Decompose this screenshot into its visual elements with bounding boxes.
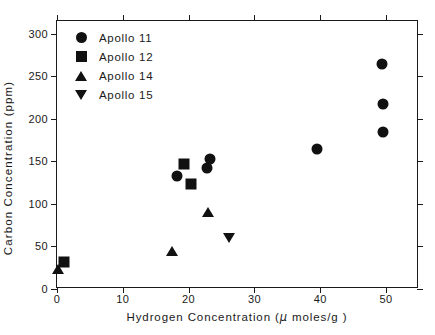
data-point-apollo-11 xyxy=(378,98,389,109)
y-axis-tick xyxy=(51,161,57,162)
triangle-down-marker-icon xyxy=(71,90,91,100)
y-axis-tick xyxy=(51,76,57,77)
y-axis-tick xyxy=(417,289,423,290)
x-axis-tick xyxy=(57,15,58,21)
data-point-apollo-11 xyxy=(204,153,215,164)
legend-label: Apollo 14 xyxy=(99,70,153,82)
legend-item-apollo-15[interactable]: Apollo 15 xyxy=(71,86,153,103)
plot-area: 05010015020025030001020304050 Apollo 11A… xyxy=(56,20,418,288)
legend-label: Apollo 11 xyxy=(99,32,152,44)
y-axis-tick xyxy=(417,119,423,120)
y-axis-title: Carbon Concentration (ppm) xyxy=(2,48,14,288)
y-axis-tick-label: 100 xyxy=(28,198,48,210)
x-axis-tick-label: 30 xyxy=(248,293,261,305)
x-axis-tick xyxy=(386,15,387,21)
legend-item-apollo-11[interactable]: Apollo 11 xyxy=(71,29,153,46)
y-axis-tick xyxy=(51,34,57,35)
mu-symbol: μ xyxy=(280,310,288,324)
data-point-apollo-11 xyxy=(202,163,213,174)
data-point-apollo-15 xyxy=(223,233,235,243)
data-point-apollo-11 xyxy=(311,144,322,155)
circle-marker-icon xyxy=(71,32,91,43)
y-axis-tick xyxy=(417,246,423,247)
data-point-apollo-14 xyxy=(202,207,214,217)
y-axis-tick xyxy=(417,161,423,162)
x-axis-tick xyxy=(123,15,124,21)
y-axis-tick-label: 50 xyxy=(35,240,48,252)
x-axis-tick xyxy=(254,15,255,21)
data-point-apollo-11 xyxy=(378,127,389,138)
x-axis-tick xyxy=(189,15,190,21)
triangle-up-marker-icon xyxy=(71,71,91,81)
y-axis-tick-label: 150 xyxy=(28,155,48,167)
data-point-apollo-12 xyxy=(186,178,197,189)
x-axis-tick-label: 50 xyxy=(380,293,393,305)
x-axis-tick-label: 20 xyxy=(182,293,195,305)
x-axis-tick xyxy=(320,15,321,21)
y-axis-tick xyxy=(51,204,57,205)
legend: Apollo 11Apollo 12Apollo 14Apollo 15 xyxy=(71,29,153,103)
x-axis-tick-label: 40 xyxy=(314,293,327,305)
legend-item-apollo-14[interactable]: Apollo 14 xyxy=(71,67,153,84)
data-point-apollo-14 xyxy=(166,246,178,256)
y-axis-tick xyxy=(51,246,57,247)
legend-item-apollo-12[interactable]: Apollo 12 xyxy=(71,48,153,65)
y-axis-tick-label: 250 xyxy=(28,70,48,82)
y-axis-tick-label: 200 xyxy=(28,113,48,125)
y-axis-tick xyxy=(417,204,423,205)
scatter-chart-figure: Carbon Concentration (ppm) Hydrogen Conc… xyxy=(0,0,435,335)
y-axis-tick xyxy=(417,76,423,77)
y-axis-tick xyxy=(51,119,57,120)
y-axis-tick-label: 0 xyxy=(41,283,48,295)
x-axis-title-suffix: moles/g ) xyxy=(288,311,348,323)
legend-label: Apollo 12 xyxy=(99,51,153,63)
data-point-apollo-11 xyxy=(172,170,183,181)
y-axis-tick xyxy=(417,34,423,35)
legend-label: Apollo 15 xyxy=(99,89,153,101)
square-marker-icon xyxy=(71,51,91,62)
x-axis-tick-label: 10 xyxy=(116,293,129,305)
x-axis-title-prefix: Hydrogen Concentration ( xyxy=(126,311,279,323)
y-axis-tick-label: 300 xyxy=(28,28,48,40)
data-point-apollo-14 xyxy=(52,264,64,274)
data-point-apollo-12 xyxy=(179,158,190,169)
data-point-apollo-11 xyxy=(377,58,388,69)
x-axis-title: Hydrogen Concentration (μ moles/g ) xyxy=(56,310,418,324)
x-axis-tick-label: 0 xyxy=(54,293,61,305)
